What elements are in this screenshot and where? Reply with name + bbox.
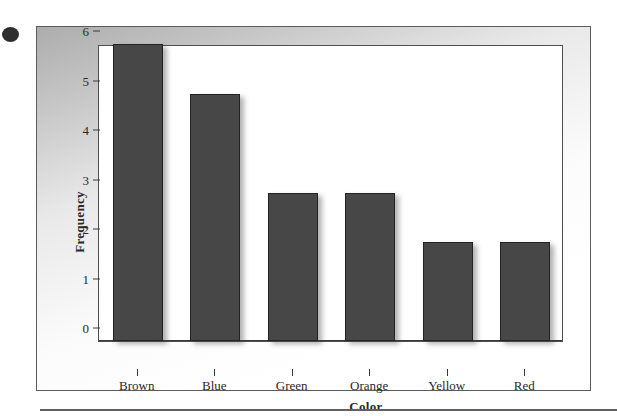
x-axis-category-label: Blue <box>202 378 227 394</box>
y-axis-tick: 1 <box>83 272 100 285</box>
x-axis-tick-mark <box>214 369 215 376</box>
x-axis-category-label: Green <box>276 378 308 394</box>
y-axis-tick-label: 5 <box>83 74 90 87</box>
x-axis-tick-mark <box>137 369 138 376</box>
x-axis-category-label: Yellow <box>428 378 465 394</box>
y-axis-tick: 0 <box>83 322 100 335</box>
y-axis-tick-label: 4 <box>83 124 90 137</box>
x-axis-tick-mark <box>524 369 525 376</box>
y-axis-tick-label: 0 <box>83 322 90 335</box>
figure-panel: Frequency 0123456 BrownBlueGreenOrangeYe… <box>36 26 591 391</box>
bar-slot <box>332 46 410 341</box>
y-axis-tick: 2 <box>83 223 100 236</box>
y-axis-tick-label: 1 <box>83 272 90 285</box>
bar-orange[interactable] <box>345 193 395 342</box>
bar-blue[interactable] <box>190 94 240 342</box>
plot-canvas: 0123456 <box>98 45 563 342</box>
bar-red[interactable] <box>500 242 550 341</box>
y-axis-tick-label: 3 <box>83 173 90 186</box>
y-axis-tick: 4 <box>83 124 100 137</box>
x-axis-tick-mark <box>447 369 448 376</box>
y-axis-tick: 3 <box>83 173 100 186</box>
x-axis-category-label: Red <box>514 378 535 394</box>
bar-brown[interactable] <box>113 44 163 341</box>
bar-green[interactable] <box>268 193 318 342</box>
x-axis-category-label: Brown <box>119 378 154 394</box>
y-axis-tick: 5 <box>83 74 100 87</box>
bar-slot <box>409 46 487 341</box>
x-axis-tick-mark <box>292 369 293 376</box>
bar-yellow[interactable] <box>423 242 473 341</box>
x-axis-tick-mark <box>369 369 370 376</box>
scan-dot-artifact <box>2 27 19 42</box>
bar-slot <box>487 46 565 341</box>
bars-layer <box>99 46 562 341</box>
y-axis-tick: 6 <box>83 25 100 38</box>
bar-slot <box>177 46 255 341</box>
bar-slot <box>254 46 332 341</box>
y-axis-tick-label: 6 <box>83 25 90 38</box>
y-axis-tick-mark <box>93 31 100 32</box>
bar-slot <box>99 46 177 341</box>
y-axis-tick-label: 2 <box>83 223 90 236</box>
x-axis-title: Color <box>349 399 382 415</box>
x-axis-category-label: Orange <box>350 378 388 394</box>
horizontal-rule <box>40 409 617 411</box>
